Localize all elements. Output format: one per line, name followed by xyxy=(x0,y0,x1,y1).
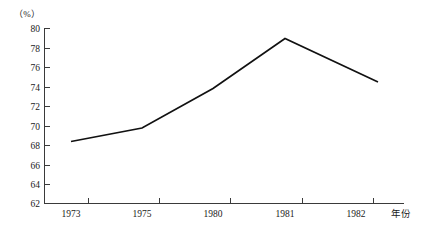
chart-page: （%） 80 78 76 74 72 70 68 66 xyxy=(0,0,432,232)
x-axis-name-label: 年份 xyxy=(391,208,411,219)
y-tick-label: 68 xyxy=(31,141,41,151)
y-axis-tick-labels: 80 78 76 74 72 70 68 66 64 62 xyxy=(31,24,41,209)
x-axis-tick-labels: 1973 1975 1980 1981 1982 xyxy=(62,209,366,219)
x-tick-label: 1981 xyxy=(276,209,295,219)
y-axis-unit-label: （%） xyxy=(14,9,40,19)
x-tick-label: 1973 xyxy=(62,209,81,219)
y-tick-label: 80 xyxy=(31,24,41,34)
y-tick-label: 64 xyxy=(31,180,41,190)
y-tick-label: 76 xyxy=(31,63,41,73)
x-tick-label: 1982 xyxy=(347,209,366,219)
x-tick-label: 1980 xyxy=(204,209,223,219)
x-tick-label: 1975 xyxy=(133,209,152,219)
y-tick-label: 72 xyxy=(31,102,41,112)
x-axis-ticks xyxy=(89,198,374,204)
y-tick-label: 70 xyxy=(31,122,41,132)
y-axis-ticks xyxy=(45,29,50,204)
data-series-line xyxy=(71,39,378,142)
y-tick-label: 66 xyxy=(31,161,41,171)
y-tick-label: 78 xyxy=(31,44,41,54)
y-tick-label: 62 xyxy=(31,199,41,209)
y-tick-label: 74 xyxy=(31,83,41,93)
line-chart: （%） 80 78 76 74 72 70 68 66 xyxy=(0,0,432,232)
